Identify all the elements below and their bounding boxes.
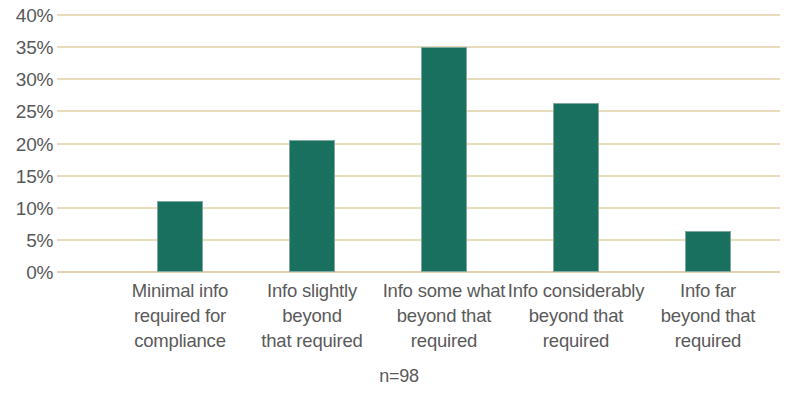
y-axis-tick-label: 35% — [1, 38, 53, 57]
x-axis-tick-label: Info farbeyond thatrequired — [636, 278, 781, 353]
y-axis-tick-label: 20% — [1, 135, 53, 154]
y-axis-tick-label: 0% — [1, 263, 53, 282]
x-axis-tick-label-line: Info some what — [372, 278, 517, 303]
gridline — [57, 110, 780, 112]
gridline — [57, 14, 780, 16]
bar — [553, 103, 599, 272]
x-axis-tick-label-line: Minimal info — [108, 278, 253, 303]
gridline — [57, 175, 780, 177]
gridline — [57, 143, 780, 145]
x-axis-tick-label-line: required — [372, 328, 517, 353]
x-axis-tick-label: Info considerablybeyond thatrequired — [504, 278, 649, 353]
x-axis-tick-label-line: required for — [108, 303, 253, 328]
x-axis-tick-label-line: Info slightly — [240, 278, 385, 303]
x-axis-tick-label-line: required — [636, 328, 781, 353]
gridline — [57, 78, 780, 80]
gridline — [57, 46, 780, 48]
y-axis-tick-label: 15% — [1, 167, 53, 186]
x-axis-tick-label-line: required — [504, 328, 649, 353]
y-axis-tick-label: 30% — [1, 70, 53, 89]
x-axis-tick-label-line: beyond that — [372, 303, 517, 328]
x-axis-tick-label-line: Info considerably — [504, 278, 649, 303]
bar — [289, 140, 335, 272]
x-axis-tick-label-line: that required — [240, 328, 385, 353]
x-axis-tick-label-line: beyond — [240, 303, 385, 328]
y-axis: 40%35%30%25%20%15%10%5%0% — [0, 0, 53, 290]
x-axis-tick-label-line: beyond that — [504, 303, 649, 328]
bar — [157, 201, 203, 272]
y-axis-tick-label: 10% — [1, 199, 53, 218]
x-axis-tick-label-line: compliance — [108, 328, 253, 353]
bar — [421, 47, 467, 272]
x-axis-tick-label: Info some whatbeyond thatrequired — [372, 278, 517, 353]
x-axis-tick-label: Info slightlybeyondthat required — [240, 278, 385, 353]
x-axis-tick-label-line: Info far — [636, 278, 781, 303]
x-axis-tick-label: Minimal inforequired forcompliance — [108, 278, 253, 353]
x-axis-category-labels: Minimal inforequired forcomplianceInfo s… — [57, 278, 780, 358]
bar-chart: 40%35%30%25%20%15%10%5%0% Minimal infore… — [0, 0, 798, 395]
x-axis-tick-label-line: beyond that — [636, 303, 781, 328]
y-axis-tick-label: 25% — [1, 102, 53, 121]
y-axis-tick-label: 40% — [1, 6, 53, 25]
sample-size-annotation: n=98 — [0, 366, 798, 387]
y-axis-tick-label: 5% — [1, 231, 53, 250]
bar — [685, 231, 731, 272]
plot-area — [57, 15, 780, 272]
